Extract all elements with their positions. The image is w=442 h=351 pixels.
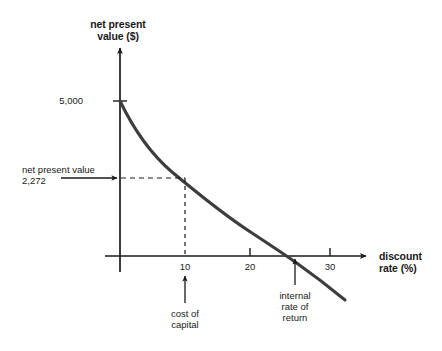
npv-callout-value: 2,272: [22, 175, 46, 186]
cost-of-capital-label: cost ofcapital: [171, 308, 199, 330]
irr-line2: rate of: [282, 301, 309, 312]
irr-line1: internal: [279, 290, 310, 301]
y-axis-title: net presentvalue ($): [90, 18, 146, 43]
internal-rate-of-return-label: internalrate ofreturn: [279, 290, 310, 324]
npv-discount-rate-chart: net presentvalue ($) discountrate (%) 5,…: [0, 0, 442, 351]
npv-curve: [120, 101, 345, 300]
npv-callout-label: net present value2,272: [22, 164, 95, 186]
x-axis-title-line1: discount: [379, 250, 422, 262]
npv-callout-title: net present value: [22, 164, 95, 175]
y-axis-title-line2: value ($): [97, 30, 139, 42]
y-axis-title-line1: net present: [90, 18, 146, 30]
x-tick-label-30: 30: [325, 261, 336, 272]
y-tick-label-5000: 5,000: [59, 95, 83, 106]
irr-line3: return: [283, 312, 308, 323]
cost-of-capital-line2: capital: [171, 319, 198, 330]
cost-of-capital-line1: cost of: [171, 308, 199, 319]
x-tick-label-20: 20: [245, 261, 256, 272]
x-tick-label-10: 10: [180, 261, 191, 272]
x-axis-title: discountrate (%): [379, 250, 422, 275]
x-axis-title-line2: rate (%): [379, 262, 417, 274]
